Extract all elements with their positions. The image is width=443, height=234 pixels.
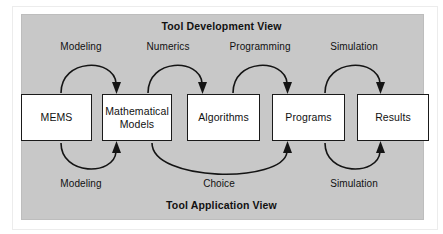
diagram-canvas: Tool Development View Tool Application V… xyxy=(0,0,443,234)
node-box-mems[interactable]: MEMS xyxy=(21,94,92,141)
arrow-programming xyxy=(233,65,292,94)
node-label-programs: Programs xyxy=(285,111,331,124)
arrow-simulation-bottom xyxy=(325,141,385,169)
arrow-modeling-bottom xyxy=(61,141,121,169)
arrow-choice xyxy=(152,141,292,174)
node-box-programs[interactable]: Programs xyxy=(272,94,345,141)
arrow-modeling-top xyxy=(61,65,121,94)
node-label-line1: Mathematical xyxy=(105,105,169,117)
node-box-algorithms[interactable]: Algorithms xyxy=(187,94,260,141)
node-box-results[interactable]: Results xyxy=(357,94,429,141)
node-label-mems: MEMS xyxy=(41,111,73,124)
arrow-simulation-top xyxy=(325,65,385,94)
arrow-numerics xyxy=(148,65,207,94)
node-label-algorithms: Algorithms xyxy=(198,111,249,124)
node-label-mathematical-models: Mathematical Models xyxy=(105,105,169,130)
node-label-line2: Models xyxy=(120,118,154,130)
node-box-mathematical-models[interactable]: Mathematical Models xyxy=(102,94,172,141)
node-label-results: Results xyxy=(375,111,411,124)
